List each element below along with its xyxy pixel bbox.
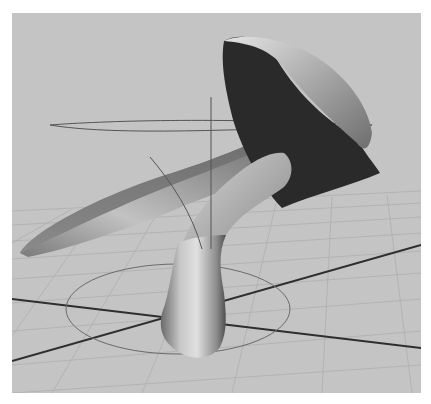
stem[interactable]: [161, 235, 226, 358]
viewport-canvas[interactable]: [12, 13, 421, 393]
3d-viewport[interactable]: [12, 13, 421, 393]
